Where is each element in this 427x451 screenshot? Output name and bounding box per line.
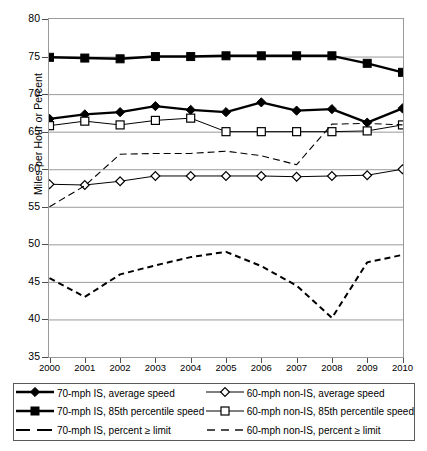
marker-filled-square bbox=[81, 54, 89, 62]
marker-filled-diamond bbox=[116, 108, 125, 117]
marker-filled-square bbox=[151, 53, 159, 61]
marker-filled-diamond bbox=[363, 118, 372, 127]
y-tick-label: 50 bbox=[0, 238, 40, 248]
legend-symbol-glyph bbox=[204, 403, 246, 419]
marker-filled-square bbox=[363, 59, 371, 67]
marker-filled-square bbox=[293, 52, 301, 60]
legend-symbol-60mph-average-speed bbox=[204, 384, 246, 403]
legend-marker bbox=[30, 388, 39, 397]
series-line bbox=[50, 252, 403, 318]
chart-figure: Miles per Hour or Percent 80757065605550… bbox=[0, 0, 427, 451]
y-tick-label: 60 bbox=[0, 163, 40, 173]
marker-open-square bbox=[222, 128, 230, 136]
y-tick-label: 80 bbox=[0, 13, 40, 23]
marker-open-square bbox=[49, 122, 54, 130]
marker-filled-square bbox=[49, 53, 54, 61]
y-tick-label: 55 bbox=[0, 201, 40, 211]
marker-filled-square bbox=[328, 52, 336, 60]
legend-symbol-glyph bbox=[14, 403, 56, 419]
legend-marker bbox=[221, 407, 229, 415]
series-canvas bbox=[49, 19, 403, 357]
legend-label-60mph-average-speed: 60-mph non-IS, average speed bbox=[247, 384, 414, 403]
marker-open-square bbox=[151, 116, 159, 124]
legend-symbol-70mph-85th-percentile-speed bbox=[14, 403, 57, 422]
y-tick-label: 75 bbox=[0, 51, 40, 61]
marker-open-diamond bbox=[151, 172, 160, 181]
marker-open-diamond bbox=[363, 171, 372, 180]
legend-symbol-glyph bbox=[204, 422, 246, 438]
marker-filled-diamond bbox=[257, 98, 266, 107]
series-3 bbox=[49, 165, 403, 190]
marker-filled-square bbox=[222, 52, 230, 60]
marker-open-diamond bbox=[186, 172, 195, 181]
legend-symbol-70mph-average-speed bbox=[14, 384, 57, 403]
marker-open-square bbox=[363, 127, 371, 135]
series-0 bbox=[49, 52, 403, 77]
series-5 bbox=[50, 252, 403, 318]
marker-filled-diamond bbox=[398, 104, 403, 113]
marker-open-diamond bbox=[292, 172, 301, 181]
marker-filled-square bbox=[116, 55, 124, 63]
x-tick-label: 2010 bbox=[381, 362, 425, 373]
legend-table: 70-mph IS, average speed 60-mph non-IS, … bbox=[14, 384, 414, 440]
legend-symbol-glyph bbox=[14, 422, 56, 438]
marker-filled-diamond bbox=[221, 108, 230, 117]
legend-symbol-60mph-85th-percentile-speed bbox=[204, 403, 246, 422]
y-tick-label: 45 bbox=[0, 276, 40, 286]
x-tick-mark bbox=[191, 358, 192, 363]
x-tick-mark bbox=[155, 358, 156, 363]
marker-filled-diamond bbox=[292, 106, 301, 115]
legend-marker bbox=[31, 407, 39, 415]
marker-open-square bbox=[328, 128, 336, 136]
marker-open-square bbox=[293, 128, 301, 136]
x-tick-mark bbox=[367, 358, 368, 363]
marker-filled-diamond bbox=[327, 105, 336, 114]
marker-filled-diamond bbox=[151, 102, 160, 111]
marker-open-square bbox=[257, 128, 265, 136]
x-tick-mark bbox=[50, 358, 51, 363]
x-tick-mark bbox=[120, 358, 121, 363]
marker-filled-square bbox=[399, 68, 404, 76]
legend-symbol-glyph bbox=[14, 384, 56, 400]
x-tick-mark bbox=[332, 358, 333, 363]
legend-label-60mph-percent-limit: 60-mph non-IS, percent ≥ limit bbox=[247, 421, 414, 440]
x-tick-mark bbox=[297, 358, 298, 363]
x-tick-mark bbox=[261, 358, 262, 363]
y-tick-label: 70 bbox=[0, 88, 40, 98]
x-tick-mark bbox=[85, 358, 86, 363]
y-tick-label: 65 bbox=[0, 126, 40, 136]
plot-area bbox=[48, 18, 404, 358]
y-tick-label: 35 bbox=[0, 351, 40, 361]
legend-row: 70-mph IS, percent ≥ limit 60-mph non-IS… bbox=[14, 421, 414, 440]
marker-open-diamond bbox=[116, 177, 125, 186]
marker-open-diamond bbox=[49, 180, 54, 189]
legend-row: 70-mph IS, 85th percentile speed 60-mph … bbox=[14, 403, 414, 422]
legend-label-70mph-percent-limit: 70-mph IS, percent ≥ limit bbox=[57, 421, 204, 440]
marker-open-square bbox=[187, 114, 195, 122]
marker-open-diamond bbox=[222, 172, 231, 181]
marker-open-square bbox=[116, 121, 124, 129]
legend-symbol-70mph-percent-limit bbox=[14, 421, 57, 440]
x-tick-mark bbox=[403, 358, 404, 363]
legend-symbol-60mph-percent-limit bbox=[204, 421, 246, 440]
legend-marker bbox=[221, 388, 230, 397]
marker-open-diamond bbox=[398, 165, 403, 174]
legend-row: 70-mph IS, average speed 60-mph non-IS, … bbox=[14, 384, 414, 403]
y-tick-label: 40 bbox=[0, 313, 40, 323]
marker-open-diamond bbox=[328, 172, 337, 181]
chart-legend: 70-mph IS, average speed 60-mph non-IS, … bbox=[13, 383, 415, 441]
legend-label-70mph-85th-percentile-speed: 70-mph IS, 85th percentile speed bbox=[57, 403, 204, 422]
legend-label-70mph-average-speed: 70-mph IS, average speed bbox=[57, 384, 204, 403]
marker-open-diamond bbox=[257, 172, 266, 181]
x-tick-mark bbox=[226, 358, 227, 363]
marker-filled-diamond bbox=[186, 105, 195, 114]
legend-label-60mph-85th-percentile-speed: 60-mph non-IS, 85th percentile speed bbox=[247, 403, 414, 422]
marker-filled-square bbox=[187, 53, 195, 61]
marker-open-square bbox=[81, 117, 89, 125]
legend-symbol-glyph bbox=[204, 384, 246, 400]
marker-filled-square bbox=[257, 52, 265, 60]
